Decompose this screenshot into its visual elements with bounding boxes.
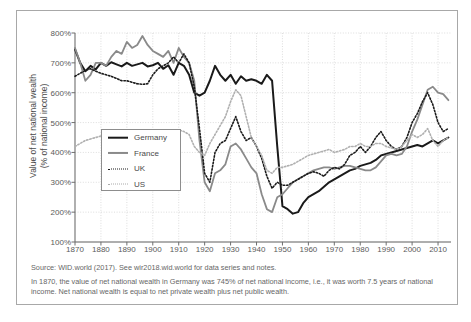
x-tick-label: 1970: [325, 245, 343, 254]
chart-figure: Value of net national wealth (% of natio…: [16, 10, 458, 305]
x-tick-label: 1980: [351, 245, 369, 254]
legend-item-label: France: [134, 149, 159, 158]
legend-item-france[interactable]: France: [102, 146, 180, 162]
legend-item-label: UK: [134, 164, 145, 173]
dotted-light-gray-line-icon: [108, 180, 128, 188]
solid-thick-black-line-icon: [108, 134, 128, 142]
x-tick-label: 1870: [66, 245, 84, 254]
x-tick-label: 1940: [248, 245, 266, 254]
x-tick-label: 1890: [118, 245, 136, 254]
chart-plot-area: Value of net national wealth (% of natio…: [17, 11, 459, 263]
footer-note: In 1870, the value of net national wealt…: [31, 277, 445, 298]
x-tick-label: 1910: [170, 245, 188, 254]
legend-item-uk[interactable]: UK: [102, 161, 180, 177]
legend-item-germany[interactable]: Germany: [102, 130, 180, 146]
chart-svg: [17, 11, 459, 263]
x-tick-label: 1960: [299, 245, 317, 254]
x-tick-label: 2000: [403, 245, 421, 254]
solid-gray-line-icon: [108, 149, 128, 157]
x-tick-label: 1930: [222, 245, 240, 254]
footer-source: Source: WID.world (2017). See wir2018.wi…: [31, 263, 445, 274]
x-tick-label: 1990: [377, 245, 395, 254]
dotted-black-line-icon: [108, 165, 128, 173]
legend-item-us[interactable]: US: [102, 177, 180, 193]
x-tick-label: 1900: [144, 245, 162, 254]
x-axis-tick-labels: 1870188018901900191019201930194019501960…: [17, 245, 459, 265]
legend-item-label: Germany: [134, 133, 167, 142]
x-tick-label: 1950: [274, 245, 292, 254]
chart-legend: GermanyFranceUKUS: [101, 129, 181, 191]
x-tick-label: 2010: [429, 245, 447, 254]
chart-footer: Source: WID.world (2017). See wir2018.wi…: [31, 263, 445, 301]
x-tick-label: 1880: [92, 245, 110, 254]
legend-item-label: US: [134, 180, 145, 189]
x-tick-label: 1920: [196, 245, 214, 254]
